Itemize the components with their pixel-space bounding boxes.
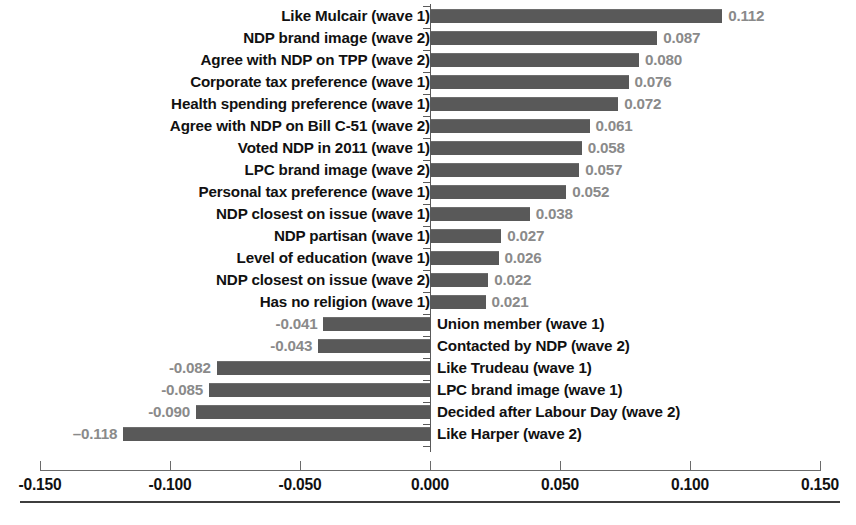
bar-value-label: -0.082 [169,357,211,379]
bar-row: Like Mulcair (wave 1)0.112 [0,5,856,27]
bar-row: NDP closest on issue (wave 2)0.022 [0,269,856,291]
zero-axis-tick [423,6,430,7]
x-axis-tick-label: -0.150 [0,476,100,494]
bottom-rule [20,501,840,503]
bar-value-label: 0.027 [507,225,544,247]
bar [323,317,430,331]
horizontal-bar-chart: Like Mulcair (wave 1)0.112NDP brand imag… [0,0,856,525]
zero-axis-tick [423,358,430,359]
bar-value-label: 0.052 [572,181,609,203]
zero-axis-tick [423,204,430,205]
bar-value-label: 0.076 [635,71,672,93]
x-axis-tick-label: 0.100 [630,476,750,494]
bar-value-label: -0.090 [148,401,190,423]
bar [209,383,430,397]
zero-axis-tick [423,50,430,51]
bar-row: LPC brand image (wave 1)-0.085 [0,379,856,401]
bar-value-label: 0.026 [505,247,542,269]
x-axis-tick [820,461,821,471]
category-label: Union member (wave 1) [437,313,604,335]
zero-axis-tick [423,182,430,183]
bar [431,97,618,111]
bar-row: NDP closest on issue (wave 1)0.038 [0,203,856,225]
category-label: NDP partisan (wave 1) [274,225,430,247]
bar-value-label: 0.022 [494,269,531,291]
bar-value-label: -0.043 [270,335,312,357]
bar-row: Personal tax preference (wave 1)0.052 [0,181,856,203]
plot-area: Like Mulcair (wave 1)0.112NDP brand imag… [0,0,856,460]
category-label: LPC brand image (wave 2) [245,159,430,181]
bar [431,207,530,221]
category-label: Like Mulcair (wave 1) [281,5,430,27]
bar-row: Contacted by NDP (wave 2)-0.043 [0,335,856,357]
bar-value-label: 0.038 [536,203,573,225]
bar-row: Agree with NDP on Bill C-51 (wave 2)0.06… [0,115,856,137]
bar [431,75,629,89]
zero-axis-tick [423,424,430,425]
category-label: Agree with NDP on TPP (wave 2) [200,49,430,71]
category-label: NDP closest on issue (wave 1) [216,203,430,225]
zero-axis-tick [423,248,430,249]
x-axis-tick-label: 0.050 [500,476,620,494]
bar-value-label: 0.057 [585,159,622,181]
bar-value-label: 0.112 [728,5,764,27]
bar [431,31,657,45]
bar-row: Has no religion (wave 1)0.021 [0,291,856,313]
x-axis-tick-label: 0.000 [370,476,490,494]
x-axis-tick [690,461,691,471]
zero-axis-tick [423,402,430,403]
zero-axis-tick [423,226,430,227]
category-label: Contacted by NDP (wave 2) [437,335,630,357]
bar-value-label: 0.061 [596,115,633,137]
zero-axis-tick [423,314,430,315]
x-axis-tick [40,461,41,471]
bar [196,405,430,419]
bar-row: Union member (wave 1)-0.041 [0,313,856,335]
bar-value-label: 0.021 [492,291,529,313]
bar-row: NDP partisan (wave 1)0.027 [0,225,856,247]
category-label: NDP brand image (wave 2) [243,27,430,49]
x-axis-tick [170,461,171,471]
bar [431,119,590,133]
bar-row: Like Trudeau (wave 1)-0.082 [0,357,856,379]
category-label: Level of education (wave 1) [237,247,430,269]
category-label: Personal tax preference (wave 1) [198,181,430,203]
bar-value-label: 0.080 [645,49,682,71]
zero-axis-line [430,4,431,452]
zero-axis-tick [423,292,430,293]
bar-row: NDP brand image (wave 2)0.087 [0,27,856,49]
x-axis-tick-label: 0.150 [760,476,856,494]
category-label: Voted NDP in 2011 (wave 1) [238,137,430,159]
zero-axis-tick [423,270,430,271]
bar [431,53,639,67]
bar [431,229,501,243]
x-axis-tick-label: -0.050 [240,476,360,494]
category-label: Like Trudeau (wave 1) [437,357,592,379]
x-axis-tick-label: -0.100 [110,476,230,494]
zero-axis-tick [423,336,430,337]
category-label: Health spending preference (wave 1) [171,93,430,115]
zero-axis-tick [423,380,430,381]
bar-value-label: –0.118 [73,423,117,445]
bar [123,427,430,441]
zero-axis-tick [423,160,430,161]
zero-axis-tick [423,72,430,73]
bar-row: Agree with NDP on TPP (wave 2)0.080 [0,49,856,71]
bar [431,295,486,309]
category-label: Has no religion (wave 1) [260,291,430,313]
zero-axis-tick [423,446,430,447]
category-label: Corporate tax preference (wave 1) [190,71,430,93]
bar-value-label: 0.058 [588,137,625,159]
x-axis-tick [560,461,561,471]
zero-axis-tick [423,116,430,117]
bar-row: Corporate tax preference (wave 1)0.076 [0,71,856,93]
bar [431,141,582,155]
zero-axis-tick [423,94,430,95]
category-label: NDP closest on issue (wave 2) [216,269,430,291]
bar [431,185,566,199]
zero-axis-tick [423,28,430,29]
category-label: Agree with NDP on Bill C-51 (wave 2) [170,115,430,137]
bar-row: Voted NDP in 2011 (wave 1)0.058 [0,137,856,159]
category-label: Decided after Labour Day (wave 2) [437,401,680,423]
bar [217,361,430,375]
